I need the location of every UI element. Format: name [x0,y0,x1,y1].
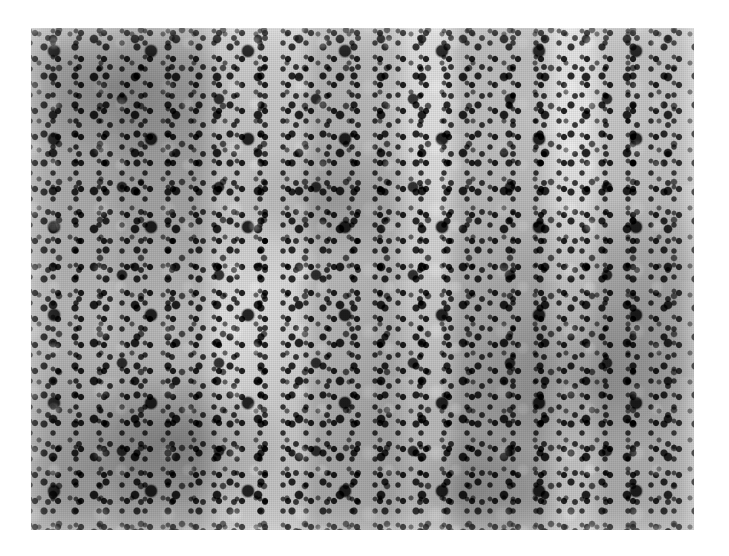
photomicrograph-plate [31,28,694,530]
page-canvas [0,0,729,556]
film-grain-layer [31,28,694,530]
